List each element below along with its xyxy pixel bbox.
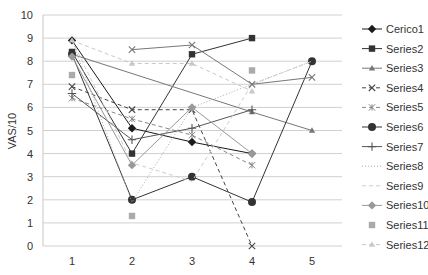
legend-item: Series11 <box>369 219 428 231</box>
y-tick-label: 8 <box>27 55 33 67</box>
circle-marker-icon <box>308 57 316 65</box>
y-tick-label: 7 <box>27 78 33 90</box>
diamond-marker-icon <box>368 201 376 209</box>
circle-marker-icon <box>248 198 256 206</box>
y-tick-label: 3 <box>27 171 33 183</box>
diamond-marker-icon <box>248 149 256 157</box>
legend-label: Series2 <box>386 43 423 55</box>
series-cerico1 <box>68 36 256 158</box>
legend-item: Series7 <box>362 141 423 153</box>
legend-label: Series5 <box>386 101 423 113</box>
star-marker-icon <box>249 162 255 168</box>
series-line <box>132 45 312 84</box>
square-marker-icon <box>129 150 135 156</box>
legend-item: Series8 <box>362 160 423 172</box>
x-tick-label: 2 <box>129 255 135 267</box>
y-tick-label: 6 <box>27 101 33 113</box>
square-marker-icon <box>249 67 255 73</box>
y-axis-title: VAS/10 <box>6 113 18 150</box>
circle-marker-icon <box>128 196 136 204</box>
plus-marker-icon <box>368 142 376 150</box>
series-series12 <box>69 37 255 93</box>
legend-label: Series7 <box>386 141 423 153</box>
legend-item: Series4 <box>362 82 423 94</box>
legend-label: Series11 <box>386 219 428 231</box>
legend-label: Series8 <box>386 160 423 172</box>
diamond-marker-icon <box>128 124 136 132</box>
legend-label: Series6 <box>386 121 423 133</box>
square-marker-icon <box>369 45 375 51</box>
plus-marker-icon <box>188 124 196 132</box>
y-tick-label: 9 <box>27 32 33 44</box>
y-tick-label: 10 <box>21 9 33 21</box>
series-line <box>72 87 252 246</box>
series-series5 <box>69 95 255 168</box>
legend-item: Series3 <box>362 62 423 74</box>
y-tick-label: 4 <box>27 148 33 160</box>
legend-label: Series10 <box>386 199 428 211</box>
legend: Cerico1Series2Series3Series4Series5Serie… <box>362 23 428 251</box>
legend-item: Series9 <box>362 180 423 192</box>
chart-canvas: 01234567891012345VAS/10Cerico1Series2Ser… <box>0 0 428 275</box>
legend-item: Series12 <box>362 239 428 251</box>
legend-item: Series5 <box>362 101 423 113</box>
series-series2 <box>69 35 255 157</box>
square-marker-icon <box>189 51 195 57</box>
square-marker-icon <box>129 213 135 219</box>
square-marker-icon <box>369 222 375 228</box>
y-tick-label: 0 <box>27 240 33 252</box>
star-marker-icon <box>189 132 195 138</box>
plus-marker-icon <box>68 89 76 97</box>
legend-item: Series6 <box>362 121 423 133</box>
series-series4b <box>129 42 315 88</box>
x-axis: 12345 <box>69 255 315 267</box>
x-tick-label: 4 <box>249 255 255 267</box>
legend-label: Series9 <box>386 180 423 192</box>
diamond-marker-icon <box>188 138 196 146</box>
x-tick-label: 1 <box>69 255 75 267</box>
x-tick-label: 5 <box>309 255 315 267</box>
legend-label: Series4 <box>386 82 423 94</box>
legend-item: Cerico1 <box>362 23 424 35</box>
square-marker-icon <box>249 35 255 41</box>
y-tick-label: 5 <box>27 125 33 137</box>
y-tick-label: 1 <box>27 217 33 229</box>
legend-item: Series10 <box>362 199 428 211</box>
legend-label: Cerico1 <box>386 23 424 35</box>
line-chart: 01234567891012345VAS/10Cerico1Series2Ser… <box>0 0 428 275</box>
series-series10 <box>68 52 256 169</box>
y-tick-label: 2 <box>27 194 33 206</box>
star-marker-icon <box>129 116 135 122</box>
series-series11 <box>69 67 255 219</box>
legend-label: Series12 <box>386 239 428 251</box>
x-tick-label: 3 <box>189 255 195 267</box>
square-marker-icon <box>69 72 75 78</box>
legend-item: Series2 <box>362 43 423 55</box>
diamond-marker-icon <box>368 25 376 33</box>
circle-marker-icon <box>368 123 376 131</box>
legend-label: Series3 <box>386 62 423 74</box>
plus-marker-icon <box>128 136 136 144</box>
